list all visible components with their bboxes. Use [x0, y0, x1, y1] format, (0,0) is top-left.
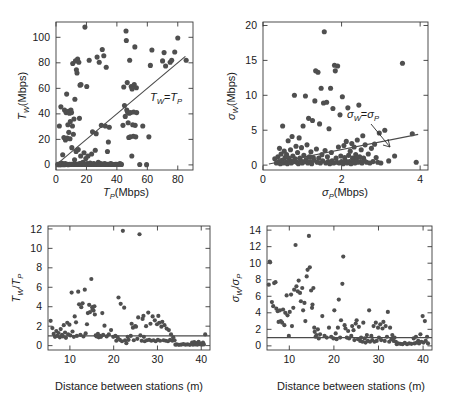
data-point: [140, 123, 145, 128]
data-point: [400, 61, 405, 66]
data-point: [293, 144, 298, 149]
x-tick-label: 60: [141, 173, 153, 185]
data-point: [386, 310, 390, 314]
y-tick-label: 10: [245, 89, 257, 101]
data-point: [386, 158, 391, 163]
data-point: [67, 136, 72, 141]
data-point: [129, 153, 134, 158]
plot-area-4: [267, 226, 432, 350]
data-point: [73, 314, 77, 318]
x-tick-label: 4: [417, 173, 423, 185]
y-axis-label-sub-2: P: [235, 273, 244, 279]
y-tick-labels: 020406080100: [32, 31, 50, 171]
data-point: [328, 86, 333, 91]
data-point: [384, 324, 388, 328]
y-axis-label-unit: (Mbps): [16, 72, 28, 106]
x-axis-label: Distance between stations (m): [55, 380, 203, 392]
data-point: [325, 336, 329, 340]
data-point: [101, 53, 106, 58]
data-point: [289, 293, 293, 297]
annot-sub-2: P: [374, 114, 380, 123]
data-point: [337, 297, 341, 301]
data-point: [374, 321, 378, 325]
x-tick-label: 30: [152, 353, 164, 365]
data-point: [78, 82, 83, 87]
data-point: [355, 137, 360, 142]
panel-sigw-vs-sigp: 05101520 024 σW(Mbps) σP(Mbps) σW=σP: [227, 0, 454, 204]
data-point: [291, 306, 295, 310]
data-point: [151, 314, 155, 318]
panel-sigw-over-sigp-svg: 02468101214 10203040 σW/σP Distance betw…: [227, 204, 454, 407]
y-tick-label: 4: [255, 306, 261, 318]
y-axis-label-unit: (Mbps): [225, 72, 237, 106]
data-point: [372, 142, 377, 147]
data-point: [76, 60, 81, 65]
x-axis-label: TP(Mbps): [103, 186, 149, 201]
data-point: [84, 331, 88, 335]
data-point: [116, 295, 120, 299]
data-point: [169, 58, 174, 63]
data-point: [202, 342, 206, 346]
data-point: [414, 160, 419, 165]
data-point: [137, 162, 142, 167]
y-axis-label: TW/TP: [10, 273, 25, 303]
data-point: [327, 326, 331, 330]
data-point: [64, 92, 69, 97]
data-point: [288, 310, 292, 314]
data-point: [69, 145, 74, 150]
y-tick-label: 20: [245, 19, 257, 31]
data-point: [70, 291, 74, 295]
data-point: [360, 133, 365, 138]
data-point: [93, 312, 97, 316]
data-point: [365, 333, 369, 337]
x-axis-label: Distance between stations (m): [277, 380, 425, 392]
data-point: [84, 84, 89, 89]
data-point: [288, 147, 293, 152]
data-point: [292, 93, 297, 98]
identity-line-annotation: σW=σP: [347, 108, 380, 123]
y-tick-label: 14: [249, 224, 261, 236]
x-tick-label: 80: [172, 173, 184, 185]
data-point: [318, 332, 322, 336]
y-tick-label: 5: [251, 124, 257, 136]
data-point: [146, 134, 151, 139]
data-point: [77, 116, 82, 121]
data-point: [351, 328, 355, 332]
data-point: [94, 131, 99, 136]
data-point: [184, 58, 189, 63]
data-point: [299, 299, 303, 303]
data-point: [392, 153, 397, 158]
data-point: [299, 145, 304, 150]
data-point: [83, 288, 87, 292]
data-point: [119, 162, 124, 167]
y-tick-label: 0: [251, 159, 257, 171]
y-tick-label: 0: [255, 339, 261, 351]
data-point: [69, 110, 74, 115]
data-point: [267, 283, 271, 287]
data-point: [352, 338, 356, 342]
data-point: [277, 146, 282, 151]
data-point: [356, 103, 361, 108]
data-point: [133, 134, 138, 139]
data-point: [172, 338, 176, 342]
data-point: [79, 305, 83, 309]
y-tick-label: 100: [32, 31, 50, 43]
data-point: [338, 336, 342, 340]
y-tick-label: 80: [38, 56, 50, 68]
data-point: [363, 142, 368, 147]
data-point: [126, 338, 130, 342]
x-tick-label: 10: [64, 353, 76, 365]
data-point: [59, 327, 63, 331]
y-tick-labels: 02468101214: [249, 224, 261, 352]
y-tick-label: 12: [30, 223, 42, 235]
data-point: [319, 152, 324, 157]
data-point: [72, 97, 77, 102]
y-axis-label-sub-2: P: [16, 273, 25, 279]
panel-tw-vs-tp: 020406080100 020406080 TW(Mbps) TP(Mbps)…: [0, 0, 227, 204]
data-point: [378, 160, 383, 165]
data-point: [268, 260, 272, 264]
data-point: [119, 302, 123, 306]
data-point: [280, 123, 285, 128]
data-point: [336, 144, 341, 149]
data-point: [355, 318, 359, 322]
